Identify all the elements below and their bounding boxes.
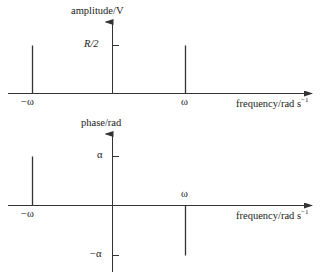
amplitude-ytick-label-r-over-2: R/2 (84, 39, 99, 50)
amplitude-xtick-label-positive-omega: ω (181, 97, 188, 108)
amplitude-xtick-label-negative-omega: −ω (21, 97, 34, 108)
amplitude-panel-graphics (8, 22, 312, 94)
amplitude-y-axis-title: amplitude/V (71, 6, 124, 17)
phase-x-axis-title: frequency/rad s−1 (236, 209, 308, 221)
phase-ytick-label-alpha: α (97, 150, 103, 161)
figure-canvas (0, 0, 324, 274)
amplitude-x-axis-title-main: frequency/rad s (236, 98, 301, 109)
phase-ytick-label-minus-alpha: −α (90, 249, 101, 260)
amplitude-x-axis-title-exponent: −1 (301, 96, 308, 104)
spectrum-figure: amplitude/V R/2 −ω ω frequency/rad s−1 p… (0, 0, 324, 274)
phase-x-axis-title-exponent: −1 (301, 208, 308, 216)
phase-y-axis-title: phase/rad (81, 118, 121, 129)
amplitude-x-axis-title: frequency/rad s−1 (236, 97, 308, 109)
phase-xtick-label-positive-omega: ω (181, 189, 188, 200)
phase-xtick-label-negative-omega: −ω (21, 209, 34, 220)
phase-x-axis-title-main: frequency/rad s (236, 210, 301, 221)
phase-panel-graphics (8, 134, 312, 272)
